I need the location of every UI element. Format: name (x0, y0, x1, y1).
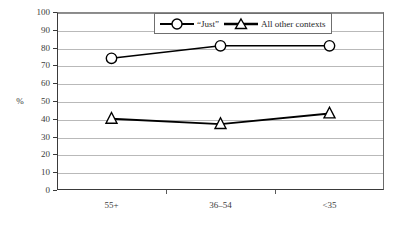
y-tick-mark-0 (53, 190, 57, 191)
gridline-50 (58, 102, 383, 103)
legend: “Just” All other contexts (154, 13, 332, 34)
x-tick-mark-1 (166, 190, 167, 194)
gridline-80 (58, 49, 383, 50)
y-tick-mark-50 (53, 101, 57, 102)
triangle-marker-icon (224, 17, 258, 31)
line-chart: % 100 90 80 70 60 50 40 30 20 10 0 55+ 3… (0, 0, 399, 227)
y-tick-mark-100 (53, 12, 57, 13)
y-tick-label-30: 30 (20, 133, 50, 142)
y-tick-label-60: 60 (20, 79, 50, 88)
legend-item-all-other-contexts: All other contexts (224, 17, 326, 31)
y-tick-mark-10 (53, 172, 57, 173)
y-tick-label-10: 10 (20, 168, 50, 177)
y-tick-label-0: 0 (20, 186, 50, 195)
circle-marker-icon (160, 17, 194, 31)
y-tick-label-100: 100 (20, 8, 50, 17)
y-tick-mark-90 (53, 30, 57, 31)
plot-area (57, 12, 384, 190)
x-tick-mark-2 (275, 190, 276, 194)
y-tick-label-20: 20 (20, 150, 50, 159)
y-tick-mark-20 (53, 154, 57, 155)
x-tick-label-under35: <35 (290, 201, 370, 210)
x-tick-label-36-54: 36–54 (181, 201, 261, 210)
gridline-30 (58, 138, 383, 139)
y-tick-mark-40 (53, 119, 57, 120)
legend-label-just: “Just” (197, 19, 219, 29)
gridline-70 (58, 66, 383, 67)
gridline-10 (58, 173, 383, 174)
y-tick-mark-60 (53, 83, 57, 84)
y-tick-mark-80 (53, 48, 57, 49)
y-tick-mark-70 (53, 65, 57, 66)
gridline-60 (58, 84, 383, 85)
y-tick-label-90: 90 (20, 26, 50, 35)
y-tick-label-70: 70 (20, 61, 50, 70)
y-tick-mark-30 (53, 137, 57, 138)
y-tick-label-40: 40 (20, 115, 50, 124)
legend-label-all-other-contexts: All other contexts (261, 19, 326, 29)
y-tick-label-80: 80 (20, 44, 50, 53)
x-tick-label-55plus: 55+ (72, 201, 152, 210)
gridline-20 (58, 155, 383, 156)
gridline-40 (58, 120, 383, 121)
y-tick-label-50: 50 (20, 97, 50, 106)
legend-item-just: “Just” (160, 17, 219, 31)
